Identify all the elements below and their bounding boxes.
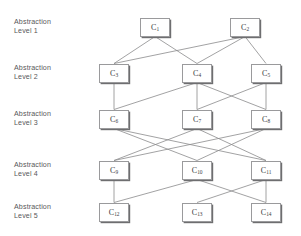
node-label-base: C — [262, 68, 267, 77]
node-c1[interactable]: C1 — [140, 18, 170, 37]
edge-c4-to-c6 — [114, 83, 197, 110]
node-label-subscript: 11 — [266, 169, 271, 175]
node-c10[interactable]: C10 — [182, 161, 212, 180]
node-label-subscript: 5 — [268, 72, 271, 78]
node-c14[interactable]: C14 — [251, 203, 281, 222]
level-label-5: Abstraction Level 5 — [14, 203, 51, 220]
node-label-base: C — [261, 165, 266, 174]
node-label: C8 — [262, 114, 270, 123]
node-label-base: C — [151, 22, 156, 31]
node-label: C7 — [193, 114, 201, 123]
node-label-base: C — [192, 165, 197, 174]
node-label-subscript: 7 — [199, 118, 202, 124]
level-label-4: Abstraction Level 4 — [14, 161, 51, 178]
edge-c2-to-c4 — [197, 37, 245, 64]
node-label-base: C — [110, 68, 115, 77]
node-label: C1 — [151, 22, 159, 31]
node-c9[interactable]: C9 — [99, 161, 129, 180]
node-c2[interactable]: C2 — [230, 18, 260, 37]
level-label-1: Abstraction Level 1 — [14, 18, 51, 35]
node-label: C12 — [109, 207, 120, 216]
node-label-subscript: 9 — [116, 169, 119, 175]
node-c4[interactable]: C4 — [182, 64, 212, 83]
edge-c2-to-c3 — [114, 37, 245, 64]
node-label-subscript: 10 — [197, 169, 202, 175]
node-label-base: C — [109, 207, 114, 216]
node-label-subscript: 3 — [116, 72, 119, 78]
node-c3[interactable]: C3 — [99, 64, 129, 83]
node-label: C5 — [262, 68, 270, 77]
node-label: C14 — [261, 207, 272, 216]
node-c8[interactable]: C8 — [251, 110, 281, 129]
node-c7[interactable]: C7 — [182, 110, 212, 129]
node-label-base: C — [262, 114, 267, 123]
node-c13[interactable]: C13 — [182, 203, 212, 222]
node-label: C11 — [261, 165, 272, 174]
diagram-canvas: Abstraction Level 1Abstraction Level 2Ab… — [0, 0, 301, 236]
node-label-base: C — [192, 207, 197, 216]
node-label: C2 — [241, 22, 249, 31]
level-label-3: Abstraction Level 3 — [14, 110, 51, 127]
node-label-subscript: 12 — [114, 211, 119, 217]
node-c5[interactable]: C5 — [251, 64, 281, 83]
node-label-base: C — [110, 114, 115, 123]
node-c12[interactable]: C12 — [99, 203, 129, 222]
node-label-subscript: 6 — [116, 118, 119, 124]
node-label: C3 — [110, 68, 118, 77]
node-label-subscript: 14 — [266, 211, 271, 217]
node-label-base: C — [261, 207, 266, 216]
node-label-base: C — [241, 22, 246, 31]
node-c6[interactable]: C6 — [99, 110, 129, 129]
node-label: C9 — [110, 165, 118, 174]
node-label-base: C — [193, 114, 198, 123]
node-c11[interactable]: C11 — [251, 161, 281, 180]
node-label-subscript: 4 — [199, 72, 202, 78]
node-label: C13 — [192, 207, 203, 216]
node-label-subscript: 13 — [197, 211, 202, 217]
node-label-base: C — [110, 165, 115, 174]
node-label-subscript: 1 — [157, 26, 160, 32]
edge-c10-to-c12 — [114, 180, 197, 203]
node-label: C10 — [192, 165, 203, 174]
edge-c1-to-c4 — [155, 37, 197, 64]
node-label: C6 — [110, 114, 118, 123]
node-label-base: C — [193, 68, 198, 77]
node-label-subscript: 8 — [268, 118, 271, 124]
node-label: C4 — [193, 68, 201, 77]
node-label-subscript: 2 — [247, 26, 250, 32]
level-label-2: Abstraction Level 2 — [14, 64, 51, 81]
edge-c2-to-c5 — [245, 37, 266, 64]
